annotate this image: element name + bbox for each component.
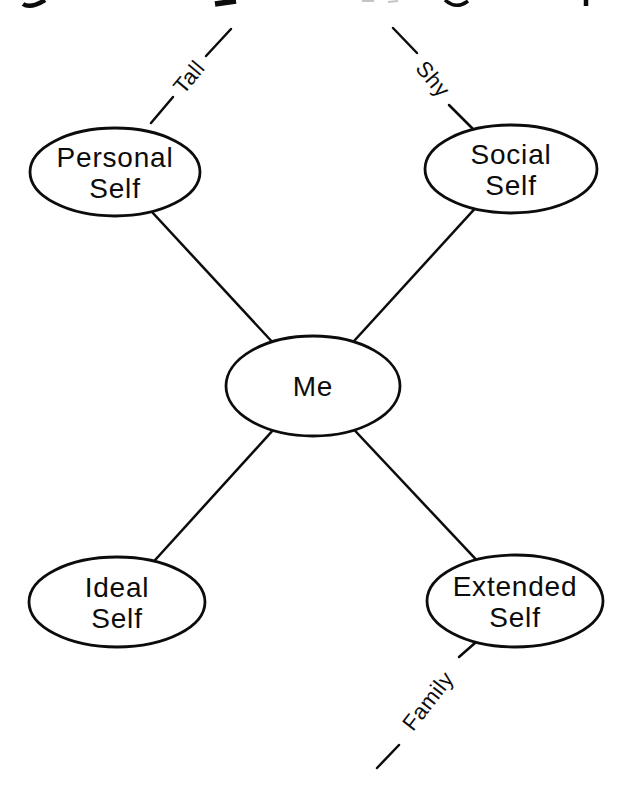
diagram-page: Personal Self Social Self Me Ideal Self …: [0, 0, 624, 792]
tall-line-outer: [206, 29, 231, 56]
social-self-label-line1: Social: [470, 139, 551, 170]
social-self-label-line2: Self: [485, 170, 536, 201]
tall-line-inner: [151, 97, 173, 123]
personal-self-label-line2: Self: [89, 173, 140, 204]
cropped-text-fragment-4: [388, 1, 398, 2]
self-concept-map-diagram: Personal Self Social Self Me Ideal Self …: [0, 0, 624, 792]
node-personal-self: Personal Self: [30, 128, 200, 216]
ideal-self-label-line2: Self: [91, 603, 142, 634]
shy-line-inner: [449, 105, 473, 129]
cropped-text-fragment-2: [215, 1, 236, 4]
extended-self-label-line2: Self: [489, 602, 540, 633]
tall-annotation-label: Tall: [168, 56, 210, 99]
extended-self-label-line1: Extended: [453, 571, 578, 602]
node-social-self: Social Self: [425, 125, 597, 213]
family-line-outer: [377, 745, 399, 768]
cropped-text-fragment-5: [445, 0, 468, 5]
family-annotation-label: Family: [397, 667, 458, 736]
family-line-inner: [459, 643, 475, 657]
nodes: Personal Self Social Self Me Ideal Self …: [29, 125, 603, 647]
node-me: Me: [226, 336, 400, 436]
me-label: Me: [293, 371, 334, 402]
ideal-self-label-line1: Ideal: [85, 572, 150, 603]
shy-line-outer: [393, 28, 417, 53]
cropped-heading-fragments: [23, 0, 586, 6]
shy-annotation-label: Shy: [411, 56, 455, 102]
node-extended-self: Extended Self: [427, 555, 603, 647]
node-ideal-self: Ideal Self: [29, 557, 205, 647]
cropped-text-fragment-1: [23, 0, 45, 6]
personal-self-label-line1: Personal: [57, 142, 174, 173]
